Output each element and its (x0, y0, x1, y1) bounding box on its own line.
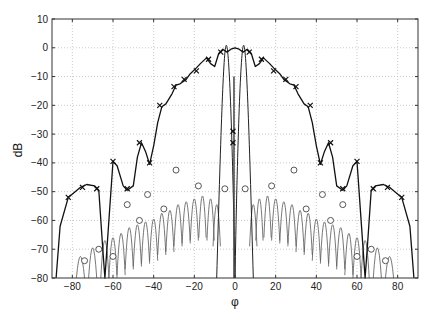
circle-marker (222, 186, 228, 192)
y-tick-label: −20 (31, 100, 48, 111)
x-tick-label: −60 (105, 281, 122, 292)
y-tick-label: −50 (31, 186, 48, 197)
circle-marker (124, 202, 130, 208)
circle-marker (269, 183, 275, 189)
chart-figure: −80−60−40−20020406080 100−10−20−30−40−50… (0, 0, 438, 317)
circle-marker (291, 167, 297, 173)
circle-marker (303, 206, 309, 212)
circle-marker (173, 167, 179, 173)
x-tick-label: 40 (311, 281, 323, 292)
circle-marker (110, 253, 116, 259)
circle-marker (242, 186, 248, 192)
grid-lines (52, 19, 418, 278)
circle-marker (328, 217, 334, 223)
x-marker (94, 186, 99, 191)
circle-marker (145, 192, 151, 198)
circle-marker (136, 217, 142, 223)
x-tick-label: 60 (351, 281, 363, 292)
x-tick-label: 0 (232, 281, 238, 292)
y-tick-label: −40 (31, 157, 48, 168)
x-tick-label: −20 (186, 281, 203, 292)
circle-marker (319, 192, 325, 198)
x-marker (157, 103, 162, 108)
y-tick-label: 0 (42, 42, 48, 53)
x-tick-label: −40 (145, 281, 162, 292)
circle-marker (340, 202, 346, 208)
x-tick-label: 80 (392, 281, 404, 292)
y-tick-label: −10 (31, 71, 48, 82)
y-tick-label: −70 (31, 244, 48, 255)
x-marker (218, 50, 223, 55)
circle-marker (368, 246, 374, 252)
circle-marker (195, 183, 201, 189)
circle-marker (161, 206, 167, 212)
circle-marker (382, 258, 388, 264)
circle-marker (96, 246, 102, 252)
circle-marker (82, 258, 88, 264)
data-markers (66, 50, 404, 264)
y-tick-label: −80 (31, 273, 48, 284)
circle-marker (354, 253, 360, 259)
x-axis-label: φ (231, 295, 239, 309)
y-tick-label: 10 (37, 14, 49, 25)
y-axis-label: dB (11, 143, 25, 158)
x-marker (308, 103, 313, 108)
plot-lines (56, 45, 414, 278)
x-tick-label: −80 (64, 281, 81, 292)
x-tick-label: 20 (270, 281, 282, 292)
y-tick-label: −30 (31, 129, 48, 140)
x-marker (371, 186, 376, 191)
y-tick-label: −60 (31, 215, 48, 226)
x-marker (247, 50, 252, 55)
